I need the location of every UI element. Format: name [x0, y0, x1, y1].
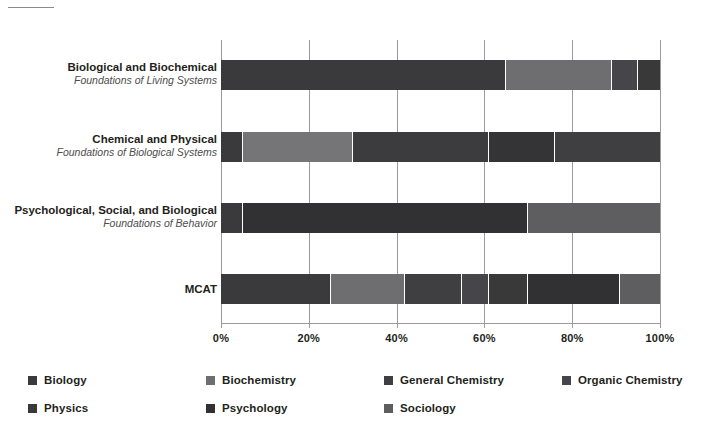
- x-tick-label: 60%: [473, 332, 496, 344]
- x-tick: [397, 323, 398, 328]
- bar-segment-general-chemistry: [405, 274, 462, 304]
- category-label-main: Psychological, Social, and Biological: [0, 203, 217, 217]
- legend-label: Organic Chemistry: [578, 374, 683, 386]
- category-label-sub: Foundations of Behavior: [0, 217, 217, 230]
- x-axis-line: [221, 323, 660, 324]
- legend-label: Sociology: [400, 402, 456, 414]
- legend-swatch-icon: [206, 404, 215, 413]
- category-label: Biological and BiochemicalFoundations of…: [0, 60, 217, 88]
- legend-label: Biochemistry: [222, 374, 296, 386]
- legend-swatch-icon: [28, 376, 37, 385]
- bar-segment-organic-chemistry: [612, 60, 638, 90]
- bar-segment-sociology: [620, 274, 660, 304]
- bar-segment-psychology: [528, 274, 620, 304]
- category-label: Psychological, Social, and BiologicalFou…: [0, 203, 217, 231]
- bar-segment-biology: [221, 60, 506, 90]
- bar-segment-sociology: [528, 203, 660, 233]
- chart-page: 0%20%40%60%80%100% Biological and Bioche…: [0, 0, 707, 447]
- category-label-sub: Foundations of Living Systems: [0, 74, 217, 87]
- legend-item-psychology[interactable]: Psychology: [206, 402, 288, 414]
- x-tick-label: 100%: [646, 332, 675, 344]
- bar-segment-biochemistry: [555, 132, 660, 162]
- category-label-main: Chemical and Physical: [0, 132, 217, 146]
- stacked-bar-chart: 0%20%40%60%80%100% Biological and Bioche…: [0, 0, 707, 360]
- gridline-100pct: [660, 40, 661, 323]
- x-tick-label: 40%: [385, 332, 408, 344]
- legend-swatch-icon: [384, 404, 393, 413]
- category-label-main: Biological and Biochemical: [0, 60, 217, 74]
- chart-legend: BiologyBiochemistryGeneral ChemistryOrga…: [28, 374, 688, 434]
- x-tick: [309, 323, 310, 328]
- bar-segment-physics: [638, 60, 660, 90]
- x-tick-label: 80%: [561, 332, 584, 344]
- x-tick-label: 20%: [297, 332, 320, 344]
- legend-label: Biology: [44, 374, 87, 386]
- bar-segment-general-chemistry: [243, 132, 353, 162]
- x-tick: [221, 323, 222, 328]
- legend-item-physics[interactable]: Physics: [28, 402, 88, 414]
- plot-area: [221, 40, 660, 323]
- category-label: Chemical and PhysicalFoundations of Biol…: [0, 132, 217, 160]
- category-label-main: MCAT: [0, 282, 217, 296]
- x-tick-label: 0%: [213, 332, 229, 344]
- bar-segment-biochemistry: [506, 60, 611, 90]
- bar-segment-physics: [489, 274, 529, 304]
- bar-segment-organic-chemistry: [353, 132, 489, 162]
- legend-item-general-chemistry[interactable]: General Chemistry: [384, 374, 504, 386]
- category-label: MCAT: [0, 282, 217, 296]
- bar-segment-biology: [221, 274, 331, 304]
- bar-row: [221, 60, 660, 90]
- legend-item-biology[interactable]: Biology: [28, 374, 87, 386]
- bar-segment-biology: [221, 132, 243, 162]
- legend-swatch-icon: [206, 376, 215, 385]
- legend-label: General Chemistry: [400, 374, 504, 386]
- legend-label: Physics: [44, 402, 88, 414]
- bar-segment-biochemistry: [331, 274, 406, 304]
- bar-segment-psychology: [243, 203, 528, 233]
- legend-item-sociology[interactable]: Sociology: [384, 402, 456, 414]
- legend-item-organic-chemistry[interactable]: Organic Chemistry: [562, 374, 683, 386]
- legend-item-biochemistry[interactable]: Biochemistry: [206, 374, 296, 386]
- x-tick: [484, 323, 485, 328]
- bar-segment-physics: [489, 132, 555, 162]
- category-label-sub: Foundations of Biological Systems: [0, 146, 217, 159]
- bar-segment-organic-chemistry: [462, 274, 488, 304]
- legend-swatch-icon: [384, 376, 393, 385]
- legend-swatch-icon: [28, 404, 37, 413]
- x-tick: [660, 323, 661, 328]
- bar-row: [221, 132, 660, 162]
- bar-row: [221, 274, 660, 304]
- x-tick: [572, 323, 573, 328]
- legend-swatch-icon: [562, 376, 571, 385]
- legend-label: Psychology: [222, 402, 288, 414]
- bar-segment-biology: [221, 203, 243, 233]
- bar-row: [221, 203, 660, 233]
